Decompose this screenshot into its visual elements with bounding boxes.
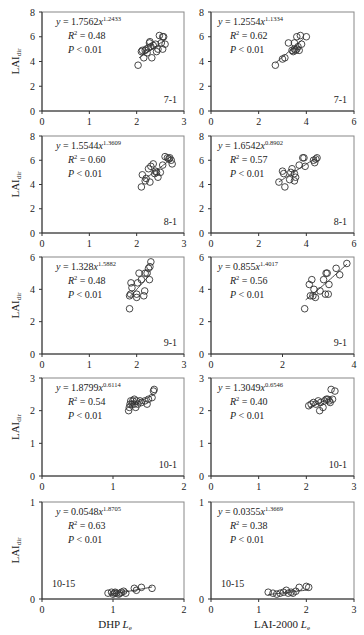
panel-date-label: 8-1 (334, 216, 347, 227)
data-point (311, 286, 318, 293)
panel-10-1-dhp: 0123012y = 1.8799x0.6114R2 = 0.54P < 0.0… (9, 373, 187, 493)
x-tick-label: 0 (40, 604, 45, 615)
r2-label: R2 = 0.54 (67, 395, 106, 407)
x-tick-label: 2 (134, 238, 139, 249)
x-tick-label: 1 (111, 481, 116, 492)
data-point (276, 179, 283, 186)
x-tick-label: 3 (182, 116, 187, 127)
x-tick-label: 6 (352, 238, 357, 249)
y-tick-label: 0 (30, 471, 35, 482)
p-value-label: P < 0.01 (229, 44, 264, 55)
p-value-label: P < 0.01 (229, 289, 264, 300)
data-point (326, 281, 333, 288)
panel-date-label: 7-1 (334, 94, 347, 105)
x-tick-label: 2 (182, 481, 187, 492)
equation-label: y = 1.6542x0.8902 (217, 139, 283, 151)
p-value-label: P < 0.01 (67, 410, 102, 421)
panel-10-1-lai2000: 01230123y = 1.3049x0.6546R2 = 0.40P < 0.… (199, 373, 357, 493)
data-point (296, 162, 303, 169)
data-point (282, 184, 289, 191)
panel-date-label: 7-1 (164, 94, 177, 105)
x-tick-label: 0 (209, 481, 214, 492)
data-point (146, 276, 153, 283)
x-tick-label: 0 (40, 359, 45, 370)
data-point (141, 288, 148, 295)
panel-9-1-lai2000: 0246024y = 0.855x1.4017R2 = 0.56P < 0.01… (199, 252, 357, 371)
panel-7-1-dhp: 024680123y = 1.7562x1.2433R2 = 0.48P < 0… (9, 7, 187, 128)
y-tick-label: 4 (30, 56, 35, 67)
y-tick-label: 3 (30, 373, 35, 384)
x-tick-label: 1 (87, 116, 92, 127)
y-tick-label: 8 (30, 7, 35, 18)
data-point (292, 174, 299, 181)
equation-label: y = 0.855x1.4017 (217, 260, 279, 272)
r2-label: R2 = 0.48 (67, 274, 106, 286)
y-axis-label: LAIdir (9, 48, 23, 75)
x-tick-label: 2 (134, 359, 139, 370)
y-tick-label: 0 (199, 594, 204, 605)
x-tick-label: 0 (40, 481, 45, 492)
panel-8-1-dhp: 024680123y = 1.5544x1.3609R2 = 0.60P < 0… (9, 131, 187, 250)
y-tick-label: 2 (199, 316, 204, 327)
data-point (344, 260, 351, 267)
data-point (328, 386, 335, 393)
y-axis-label: LAIdir (9, 413, 23, 440)
equation-label: y = 1.7562x1.2433 (55, 15, 121, 27)
equation-label: y = 1.5544x1.3609 (55, 139, 121, 151)
panel-date-label: 10-1 (159, 459, 177, 470)
y-tick-label: 8 (30, 131, 35, 142)
x-tick-label: 2 (256, 116, 261, 127)
data-point (169, 161, 176, 168)
panel-date-label: 10-15 (221, 578, 244, 589)
data-point (147, 179, 154, 186)
x-tick-label: 2 (304, 481, 309, 492)
panel-10-15-dhp: 01012y = 0.0548x1.8705R2 = 0.63P < 0.011… (9, 497, 187, 616)
y-tick-label: 0 (30, 594, 35, 605)
equation-label: y = 0.0548x1.8705 (55, 505, 121, 517)
x-tick-label: 1 (256, 604, 261, 615)
x-tick-label: 4 (304, 238, 309, 249)
x-tick-label: 3 (352, 481, 357, 492)
y-tick-label: 6 (30, 155, 35, 166)
x-tick-label: 2 (182, 604, 187, 615)
y-tick-label: 1 (30, 438, 35, 449)
y-tick-label: 2 (30, 203, 35, 214)
y-tick-label: 6 (199, 31, 204, 42)
equation-label: y = 1.3049x0.6546 (217, 381, 284, 393)
panel-7-1-lai2000: 024680246y = 1.2554x1.1334R2 = 0.62P < 0… (199, 7, 357, 128)
p-value-label: P < 0.01 (67, 534, 102, 545)
y-tick-label: 1 (199, 438, 204, 449)
x-tick-label: 0 (40, 238, 45, 249)
y-tick-label: 4 (199, 179, 204, 190)
r2-label: R2 = 0.60 (67, 153, 106, 165)
p-value-label: P < 0.01 (229, 534, 264, 545)
x-tick-label: 2 (134, 116, 139, 127)
x-tick-label: 2 (256, 238, 261, 249)
y-tick-label: 2 (30, 316, 35, 327)
y-tick-label: 0 (199, 228, 204, 239)
y-tick-label: 4 (199, 56, 204, 67)
data-point (135, 62, 142, 69)
figure-grid: 024680123y = 1.7562x1.2433R2 = 0.48P < 0… (0, 0, 364, 635)
panel-date-label: 10-1 (329, 459, 347, 470)
x-tick-label: 0 (40, 116, 45, 127)
y-axis-label: LAIdir (9, 171, 23, 198)
panel-10-15-lai2000: 010123y = 0.0355x1.3669R2 = 0.38P < 0.01… (199, 497, 357, 616)
x-tick-label: 1 (256, 481, 261, 492)
x-tick-label: 1 (111, 604, 116, 615)
data-point (148, 259, 155, 266)
x-axis-label-lai2000: LAI-2000 Le (254, 618, 310, 632)
data-point (332, 388, 339, 395)
y-tick-label: 6 (30, 252, 35, 263)
data-point (136, 270, 143, 277)
p-value-label: P < 0.01 (229, 410, 264, 421)
panel-date-label: 8-1 (164, 216, 177, 227)
p-value-label: P < 0.01 (67, 44, 102, 55)
data-point (139, 172, 146, 179)
data-point (280, 170, 287, 177)
data-point (149, 585, 156, 592)
data-point (303, 33, 310, 40)
data-point (333, 265, 340, 272)
r2-label: R2 = 0.62 (229, 29, 268, 41)
x-tick-label: 4 (304, 116, 309, 127)
